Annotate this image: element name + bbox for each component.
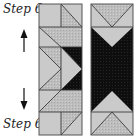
right-strip: [91, 4, 133, 135]
left-strip: [39, 4, 82, 135]
up-arrow-icon: [21, 29, 28, 52]
quilt-diagram: [0, 0, 134, 138]
down-arrow-icon: [21, 88, 28, 110]
